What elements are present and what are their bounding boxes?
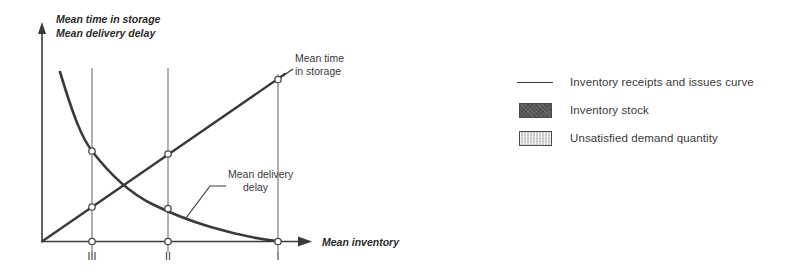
legend-label-receipts-curve: Inventory receipts and issues curve bbox=[570, 76, 754, 88]
annotation-delay-line2: delay bbox=[243, 181, 269, 193]
x-tick-label-III: III bbox=[88, 250, 97, 262]
legend-label-unsatisfied-demand: Unsatisfied demand quantity bbox=[570, 132, 718, 144]
chart-svg: Mean time in storage Mean delivery delay… bbox=[0, 0, 460, 273]
legend-item-inventory-stock: Inventory stock bbox=[516, 98, 801, 122]
annotation-storage-line1: Mean time bbox=[295, 52, 344, 64]
y-axis-title-line1: Mean time in storage bbox=[56, 13, 161, 25]
legend: Inventory receipts and issues curve Inve… bbox=[516, 70, 801, 154]
legend-label-inventory-stock: Inventory stock bbox=[570, 104, 649, 116]
y-axis bbox=[38, 22, 46, 242]
legend-item-unsatisfied-demand: Unsatisfied demand quantity bbox=[516, 126, 801, 150]
series-mean-time-in-storage bbox=[42, 74, 285, 242]
marker-axis-III bbox=[89, 238, 95, 244]
annotation-leader-storage bbox=[281, 69, 293, 77]
marker-delay-II bbox=[165, 205, 171, 211]
y-axis-title-line2: Mean delivery delay bbox=[56, 27, 156, 39]
chart-area: Mean time in storage Mean delivery delay… bbox=[0, 0, 460, 273]
marker-storage-I bbox=[275, 76, 281, 82]
x-tick-label-I: I bbox=[277, 250, 280, 262]
x-tick-label-II: II bbox=[165, 250, 171, 262]
guide-lines bbox=[92, 68, 278, 252]
marker-storage-II bbox=[165, 151, 171, 157]
figure-root: Mean time in storage Mean delivery delay… bbox=[0, 0, 805, 273]
light-swatch-icon bbox=[519, 131, 552, 146]
legend-key-line bbox=[516, 74, 554, 90]
annotation-leader-delay bbox=[186, 186, 226, 218]
legend-key-dark bbox=[516, 102, 554, 118]
annotation-storage-line2: in storage bbox=[295, 65, 341, 77]
line-swatch-icon bbox=[517, 82, 553, 83]
dark-swatch-icon bbox=[519, 103, 552, 118]
annotation-delay-line1: Mean delivery bbox=[228, 168, 294, 180]
annotation-mean-time-in-storage: Mean time in storage bbox=[281, 52, 344, 77]
marker-axis-II bbox=[165, 238, 171, 244]
marker-axis-I bbox=[275, 238, 281, 244]
x-axis-title: Mean inventory bbox=[322, 236, 400, 248]
legend-key-light bbox=[516, 130, 554, 146]
legend-item-receipts-curve: Inventory receipts and issues curve bbox=[516, 70, 801, 94]
marker-delay-III bbox=[89, 148, 95, 154]
marker-storage-III bbox=[89, 204, 95, 210]
